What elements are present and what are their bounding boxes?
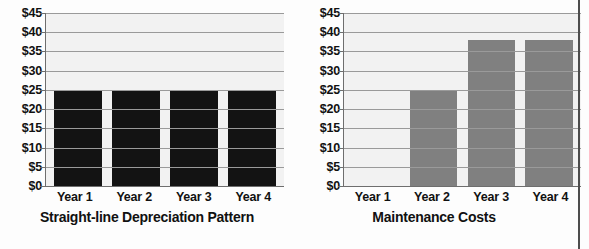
gridline bbox=[344, 13, 581, 14]
x-axis-category-label: Year 1 bbox=[45, 190, 105, 208]
y-axis-tick-mark bbox=[40, 186, 46, 187]
bar-group-right bbox=[344, 13, 581, 186]
y-axis-tick-mark bbox=[338, 13, 344, 14]
x-axis-category-label: Year 3 bbox=[164, 190, 224, 208]
bar-year-3 bbox=[170, 90, 218, 186]
y-axis-tick-mark bbox=[338, 51, 344, 52]
figure-container: $0$5$10$15$20$25$30$35$40$45 Year 1Year … bbox=[0, 0, 589, 249]
bar-year-4 bbox=[228, 90, 276, 186]
gridline bbox=[344, 167, 581, 168]
y-axis-tick-label: $35 bbox=[300, 45, 340, 58]
page-edge-rule bbox=[578, 0, 580, 249]
y-axis-tick-label: $40 bbox=[300, 26, 340, 39]
y-axis-tick-label: $10 bbox=[2, 141, 42, 154]
y-axis-tick-mark bbox=[40, 148, 46, 149]
gridline bbox=[46, 32, 284, 33]
chart-caption-right: Maintenance Costs bbox=[294, 209, 574, 225]
y-axis-tick-label: $40 bbox=[2, 26, 42, 39]
y-axis-tick-mark bbox=[40, 167, 46, 168]
plot-area-left bbox=[45, 13, 284, 186]
y-axis-tick-label: $15 bbox=[2, 122, 42, 135]
chart-panel-straight-line-depreciation: $0$5$10$15$20$25$30$35$40$45 Year 1Year … bbox=[0, 0, 294, 249]
y-axis-tick-label: $5 bbox=[2, 161, 42, 174]
y-axis-tick-label: $45 bbox=[300, 7, 340, 20]
y-axis-tick-mark bbox=[338, 90, 344, 91]
gridline bbox=[344, 109, 581, 110]
bar-slot bbox=[405, 13, 463, 186]
bar-slot bbox=[463, 13, 521, 186]
gridline bbox=[46, 13, 284, 14]
bar-slot bbox=[107, 13, 165, 186]
gridline bbox=[46, 51, 284, 52]
y-axis-tick-label: $45 bbox=[2, 7, 42, 20]
plot-area-right bbox=[343, 13, 581, 186]
bar-slot bbox=[520, 13, 578, 186]
y-axis-tick-mark bbox=[338, 128, 344, 129]
y-axis-tick-mark bbox=[338, 167, 344, 168]
y-axis-tick-label: $0 bbox=[300, 180, 340, 193]
gridline bbox=[344, 32, 581, 33]
gridline bbox=[344, 51, 581, 52]
y-axis-tick-label: $15 bbox=[300, 122, 340, 135]
bar-group-left bbox=[46, 13, 284, 186]
x-axis-category-label: Year 3 bbox=[462, 190, 521, 208]
bar-year-2 bbox=[410, 90, 457, 186]
x-axis-labels-left: Year 1Year 2Year 3Year 4 bbox=[45, 190, 283, 208]
y-axis-tick-label: $20 bbox=[300, 103, 340, 116]
y-axis-tick-label: $0 bbox=[2, 180, 42, 193]
gridline bbox=[46, 71, 284, 72]
y-axis-tick-mark bbox=[338, 32, 344, 33]
bar-year-2 bbox=[112, 90, 160, 186]
bar-slot bbox=[165, 13, 223, 186]
x-axis-category-label: Year 4 bbox=[521, 190, 580, 208]
y-axis-tick-label: $35 bbox=[2, 45, 42, 58]
gridline bbox=[46, 167, 284, 168]
gridline bbox=[46, 128, 284, 129]
bar-year-1 bbox=[54, 90, 102, 186]
y-axis-tick-label: $5 bbox=[300, 161, 340, 174]
x-axis-category-label: Year 2 bbox=[402, 190, 461, 208]
chart-caption-left: Straight-line Depreciation Pattern bbox=[0, 209, 294, 225]
bar-slot bbox=[223, 13, 281, 186]
y-axis-tick-mark bbox=[40, 13, 46, 14]
y-axis-tick-label: $25 bbox=[2, 84, 42, 97]
gridline bbox=[344, 148, 581, 149]
y-axis-tick-mark bbox=[40, 128, 46, 129]
y-axis-tick-label: $30 bbox=[2, 64, 42, 77]
y-axis-tick-mark bbox=[40, 71, 46, 72]
y-axis-tick-mark bbox=[338, 71, 344, 72]
bar-slot bbox=[49, 13, 107, 186]
bar-year-3 bbox=[468, 40, 515, 186]
gridline bbox=[46, 90, 284, 91]
gridline bbox=[46, 148, 284, 149]
y-axis-tick-mark bbox=[40, 90, 46, 91]
y-axis-tick-label: $20 bbox=[2, 103, 42, 116]
chart-panel-maintenance-costs: $0$5$10$15$20$25$30$35$40$45 Year 1Year … bbox=[294, 0, 589, 249]
bar-year-4 bbox=[525, 40, 572, 186]
y-axis-tick-label: $25 bbox=[300, 84, 340, 97]
y-axis-tick-mark bbox=[40, 109, 46, 110]
x-axis-labels-right: Year 1Year 2Year 3Year 4 bbox=[343, 190, 580, 208]
bar-slot bbox=[347, 13, 405, 186]
x-axis-category-label: Year 4 bbox=[224, 190, 284, 208]
y-axis-tick-mark bbox=[40, 32, 46, 33]
y-axis-tick-label: $10 bbox=[300, 141, 340, 154]
gridline bbox=[344, 128, 581, 129]
y-axis-tick-mark bbox=[338, 148, 344, 149]
gridline bbox=[344, 90, 581, 91]
gridline bbox=[46, 109, 284, 110]
y-axis-tick-label: $30 bbox=[300, 64, 340, 77]
x-axis-category-label: Year 2 bbox=[105, 190, 165, 208]
x-axis-category-label: Year 1 bbox=[343, 190, 402, 208]
y-axis-tick-mark bbox=[40, 51, 46, 52]
gridline bbox=[344, 71, 581, 72]
y-axis-tick-mark bbox=[338, 186, 344, 187]
y-axis-tick-mark bbox=[338, 109, 344, 110]
